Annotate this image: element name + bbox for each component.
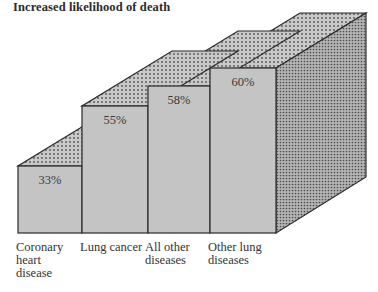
bar-front-other-lung-diseases	[210, 68, 276, 233]
category-label-all-other-diseases: All other diseases	[145, 241, 190, 267]
category-label-coronary-heart-disease: Coronary heart disease	[16, 241, 63, 280]
value-label-lung-cancer: 55%	[104, 113, 127, 127]
value-label-coronary: 33%	[39, 173, 62, 187]
category-label-other-lung-diseases: Other lung diseases	[208, 241, 262, 267]
value-label-other-lung: 60%	[232, 75, 255, 89]
value-label-all-other: 58%	[168, 93, 191, 107]
category-label-lung-cancer: Lung cancer	[80, 241, 142, 254]
bar-front-all-other-diseases	[148, 86, 210, 233]
